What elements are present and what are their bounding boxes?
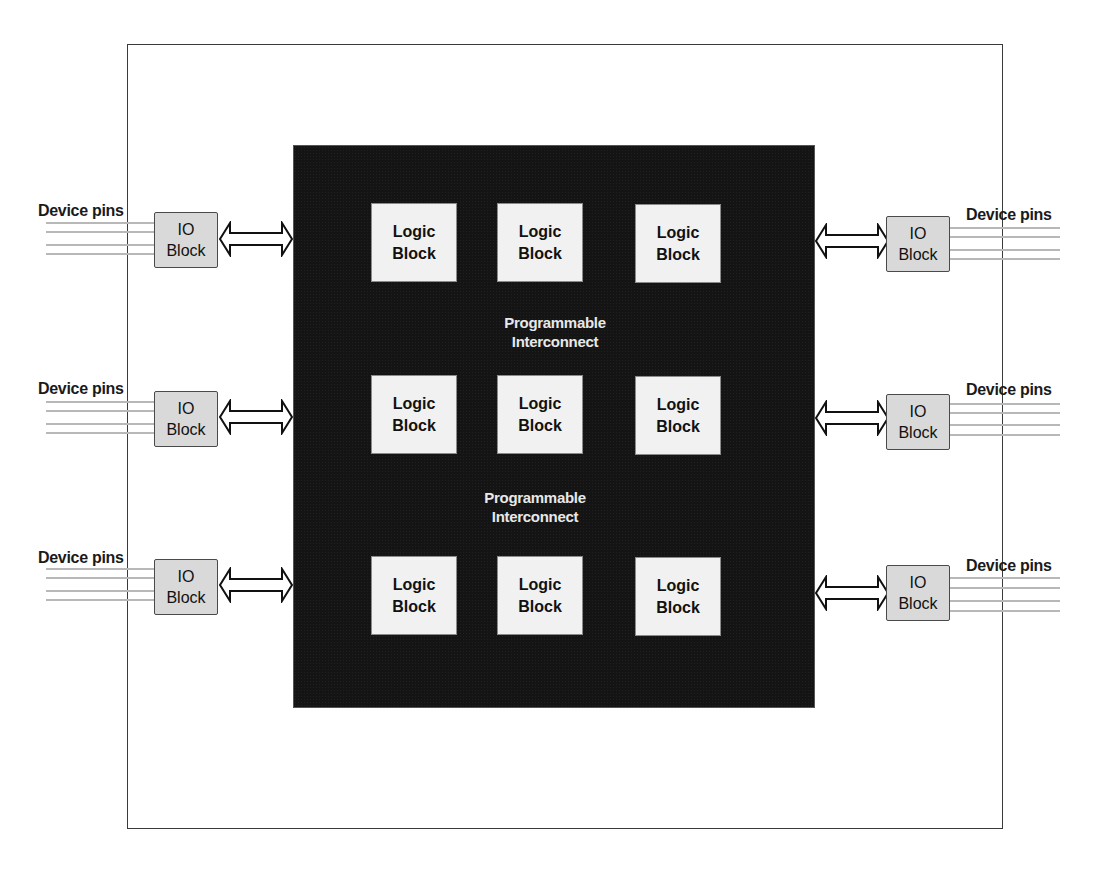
logic-block-r2c1: Logic Block xyxy=(371,375,457,454)
io-block-right-1: IO Block xyxy=(886,216,950,272)
io-block-label-line1: IO xyxy=(910,223,927,244)
interconnect-label-line2: Interconnect xyxy=(455,332,655,351)
io-block-label-line1: IO xyxy=(178,219,195,240)
logic-block-label-line1: Logic xyxy=(657,222,700,244)
io-block-label-line2: Block xyxy=(166,587,205,608)
logic-block-label-line2: Block xyxy=(656,416,700,438)
logic-block-r1c2: Logic Block xyxy=(497,203,583,282)
pin-line xyxy=(950,434,1060,436)
pin-line xyxy=(46,599,154,601)
io-block-right-2: IO Block xyxy=(886,394,950,450)
logic-block-label-line2: Block xyxy=(656,597,700,619)
logic-block-label-line1: Logic xyxy=(657,394,700,416)
pin-line xyxy=(950,424,1060,426)
pin-line xyxy=(950,403,1060,405)
pin-line xyxy=(950,587,1060,589)
device-pins-label-right-3: Device pins xyxy=(966,557,1052,575)
double-headed-bus-arrow-icon xyxy=(814,400,890,436)
pin-line xyxy=(46,231,154,233)
pin-line xyxy=(950,236,1060,238)
pin-line xyxy=(46,410,154,412)
double-headed-bus-arrow-icon xyxy=(218,399,294,435)
double-headed-bus-arrow-icon xyxy=(814,575,890,611)
io-block-label-line2: Block xyxy=(898,422,937,443)
double-headed-bus-arrow-icon xyxy=(218,567,294,603)
pin-line xyxy=(950,610,1060,612)
logic-block-label-line2: Block xyxy=(518,415,562,437)
logic-block-r3c3: Logic Block xyxy=(635,557,721,636)
io-block-left-3: IO Block xyxy=(154,559,218,615)
logic-block-r1c1: Logic Block xyxy=(371,203,457,282)
logic-block-label-line2: Block xyxy=(392,596,436,618)
logic-block-r2c2: Logic Block xyxy=(497,375,583,454)
logic-block-label-line1: Logic xyxy=(519,574,562,596)
pin-line xyxy=(950,600,1060,602)
io-block-label-line1: IO xyxy=(910,572,927,593)
device-pins-label-right-2: Device pins xyxy=(966,381,1052,399)
logic-block-label-line1: Logic xyxy=(519,393,562,415)
interconnect-label-line1: Programmable xyxy=(455,313,655,332)
programmable-interconnect-label-1: Programmable Interconnect xyxy=(455,313,655,351)
logic-block-label-line2: Block xyxy=(518,596,562,618)
logic-block-label-line1: Logic xyxy=(393,221,436,243)
logic-block-label-line1: Logic xyxy=(657,575,700,597)
pin-line xyxy=(46,244,154,246)
logic-block-label-line2: Block xyxy=(392,243,436,265)
pin-line xyxy=(46,568,154,570)
logic-block-r2c3: Logic Block xyxy=(635,376,721,455)
device-pins-label-left-1: Device pins xyxy=(38,202,124,220)
pin-line xyxy=(950,577,1060,579)
double-headed-bus-arrow-icon xyxy=(814,223,890,259)
pin-line xyxy=(46,253,154,255)
io-block-label-line2: Block xyxy=(898,244,937,265)
io-block-label-line2: Block xyxy=(166,419,205,440)
pin-line xyxy=(46,432,154,434)
logic-block-label-line2: Block xyxy=(518,243,562,265)
device-pins-label-left-3: Device pins xyxy=(38,549,124,567)
interconnect-label-line2: Interconnect xyxy=(435,507,635,526)
logic-block-r3c1: Logic Block xyxy=(371,556,457,635)
interconnect-label-line1: Programmable xyxy=(435,488,635,507)
logic-block-label-line1: Logic xyxy=(519,221,562,243)
pin-line xyxy=(950,249,1060,251)
logic-block-label-line2: Block xyxy=(656,244,700,266)
pin-line xyxy=(46,590,154,592)
pin-line xyxy=(46,222,154,224)
io-block-right-3: IO Block xyxy=(886,565,950,621)
device-pins-label-left-2: Device pins xyxy=(38,380,124,398)
io-block-label-line2: Block xyxy=(166,240,205,261)
pin-line xyxy=(46,423,154,425)
io-block-label-line2: Block xyxy=(898,593,937,614)
io-block-label-line1: IO xyxy=(178,566,195,587)
pin-line xyxy=(46,577,154,579)
io-block-label-line1: IO xyxy=(910,401,927,422)
pin-line xyxy=(950,227,1060,229)
logic-block-r3c2: Logic Block xyxy=(497,556,583,635)
double-headed-bus-arrow-icon xyxy=(218,221,294,257)
programmable-interconnect-label-2: Programmable Interconnect xyxy=(435,488,635,526)
io-block-left-2: IO Block xyxy=(154,391,218,447)
logic-block-label-line2: Block xyxy=(392,415,436,437)
pin-line xyxy=(950,412,1060,414)
logic-block-label-line1: Logic xyxy=(393,393,436,415)
logic-block-r1c3: Logic Block xyxy=(635,204,721,283)
io-block-label-line1: IO xyxy=(178,398,195,419)
pin-line xyxy=(46,401,154,403)
io-block-left-1: IO Block xyxy=(154,212,218,268)
device-pins-label-right-1: Device pins xyxy=(966,206,1052,224)
logic-block-label-line1: Logic xyxy=(393,574,436,596)
pin-line xyxy=(950,258,1060,260)
